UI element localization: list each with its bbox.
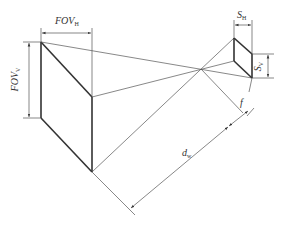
sensor-plane: [234, 38, 252, 78]
s-h-dimension: [234, 20, 252, 54]
s-v-label: SV: [253, 62, 264, 71]
diagram-graphic: [0, 0, 281, 227]
distance-dimensions: [92, 78, 254, 215]
fov-v-dimension: [23, 42, 41, 118]
fov-h-dimension: [41, 28, 92, 97]
fov-h-label: FOVH: [55, 16, 79, 27]
s-h-label: SH: [237, 10, 246, 21]
f-label: f: [240, 98, 243, 108]
fov-diagram: FOVH FOVV SH SV f dw: [0, 0, 281, 227]
d-w-label: dw: [182, 148, 191, 159]
fov-v-label: FOVV: [10, 68, 21, 92]
object-plane: [41, 42, 92, 172]
